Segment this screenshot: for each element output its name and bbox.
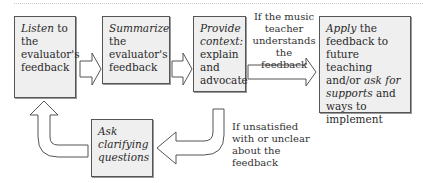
curved-arrow-icon	[30, 101, 88, 157]
listen-box: Listen to the evaluator's feedback	[14, 16, 76, 98]
curved-arrow-icon	[157, 109, 224, 164]
arrow-right-icon	[172, 53, 192, 85]
summarize-box: Summarize the evaluator's feedback	[102, 16, 170, 84]
unsatisfied-condition-label: If unsatisfied with or unclear about the…	[232, 121, 312, 169]
ask-questions-box: Ask clarifying questions	[91, 119, 153, 177]
understands-condition-label: If the music teacher understands the fee…	[252, 11, 316, 71]
arrow-right-icon	[80, 53, 101, 85]
apply-box: Apply the feedback to future teaching an…	[319, 16, 411, 113]
provide-context-box: Provide context: explain and advocate	[193, 16, 246, 92]
